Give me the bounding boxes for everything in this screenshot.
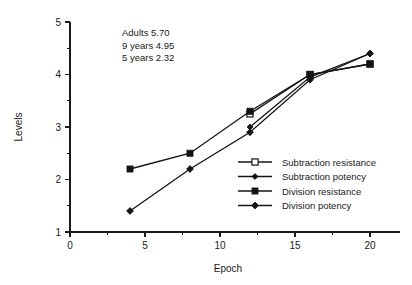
x-tick-label: 10 — [214, 240, 226, 251]
y-tick-label: 1 — [55, 227, 61, 238]
legend-label: Division potency — [282, 200, 351, 211]
x-axis-title: Epoch — [214, 263, 242, 274]
y-tick-label: 2 — [55, 174, 61, 185]
x-tick-label: 0 — [67, 240, 73, 251]
data-point — [127, 166, 133, 172]
y-tick-label: 5 — [55, 17, 61, 28]
annotation-line: 9 years 4.95 — [122, 40, 174, 51]
annotation-line: 5 years 2.32 — [122, 52, 174, 63]
series-0 — [247, 61, 373, 117]
data-point — [367, 61, 373, 67]
annotation-line: Adults 5.70 — [122, 27, 170, 38]
legend-label: Division resistance — [282, 186, 361, 197]
legend-entry-3: Division potency — [238, 200, 351, 211]
x-tick-label: 5 — [142, 240, 148, 251]
legend-label: Subtraction resistance — [282, 157, 376, 168]
legend-marker — [252, 159, 258, 165]
y-axis-ticks — [65, 22, 70, 232]
x-tick-label: 15 — [289, 240, 301, 251]
data-point — [247, 108, 253, 114]
annotation-block: Adults 5.709 years 4.955 years 2.32 — [122, 27, 174, 63]
legend-marker — [252, 174, 258, 180]
x-axis-ticks — [70, 232, 370, 237]
data-point — [187, 150, 193, 156]
chart-legend: Subtraction resistanceSubtraction potenc… — [238, 157, 376, 212]
y-tick-label: 4 — [55, 69, 61, 80]
y-tick-label: 3 — [55, 122, 61, 133]
legend-entry-2: Division resistance — [238, 186, 361, 197]
data-point — [367, 50, 374, 57]
legend-label: Subtraction potency — [282, 171, 366, 182]
x-tick-label: 20 — [364, 240, 376, 251]
chart-figure: 12345 05101520 Adults 5.709 years 4.955 … — [0, 0, 412, 285]
legend-marker — [252, 188, 258, 194]
legend-entry-0: Subtraction resistance — [238, 157, 376, 168]
x-axis-tick-labels: 05101520 — [67, 240, 376, 251]
legend-entry-1: Subtraction potency — [238, 171, 366, 182]
y-axis-tick-labels: 12345 — [55, 17, 61, 238]
y-axis-title: Levels — [13, 113, 24, 142]
chart-canvas: 12345 05101520 Adults 5.709 years 4.955 … — [0, 0, 412, 285]
legend-marker — [252, 202, 259, 209]
